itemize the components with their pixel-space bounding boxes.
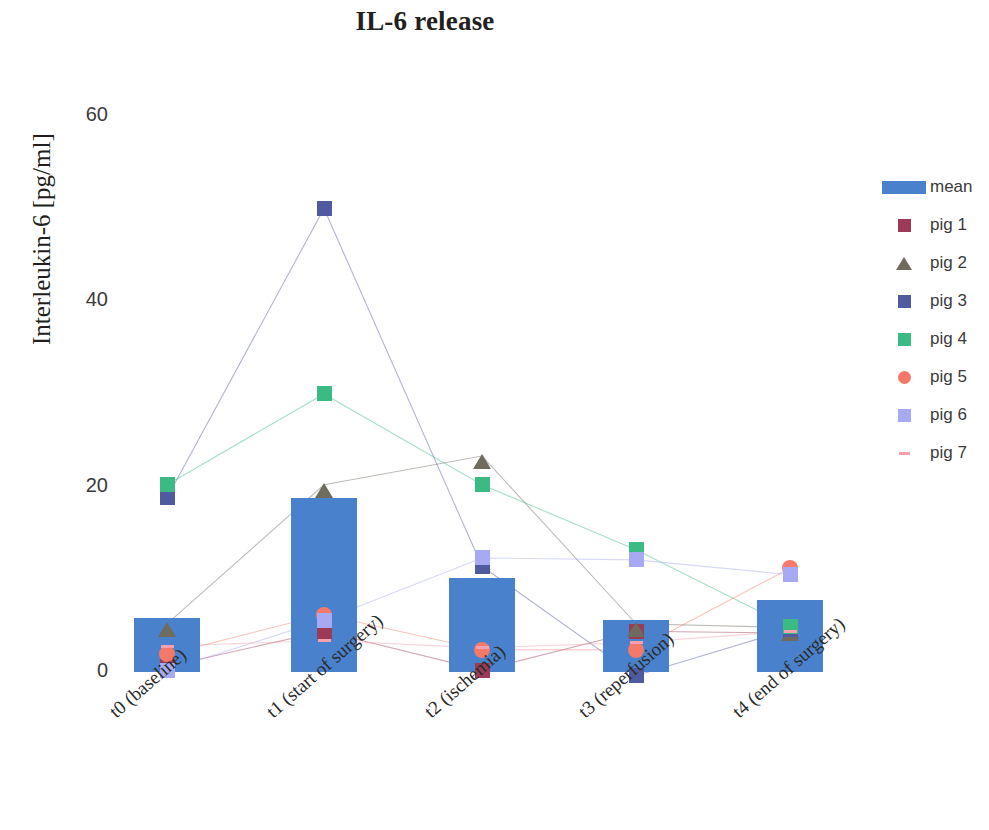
- marker-pig-6-4: [783, 567, 798, 582]
- y-tick-20: 20: [62, 474, 108, 497]
- plot-area: Interleukin-6 [pg/ml] 0204060 t0 (baseli…: [110, 100, 850, 690]
- legend-label: pig 3: [930, 291, 967, 311]
- legend-marker-circle-icon: [878, 371, 930, 384]
- legend-marker-bar-icon: [878, 181, 930, 194]
- marker-pig-3-1: [317, 201, 332, 216]
- marker-pig-2-3: [627, 622, 645, 637]
- legend-item-pig-2[interactable]: pig 2: [878, 244, 989, 282]
- legend-label: pig 2: [930, 253, 967, 273]
- legend-item-pig-5[interactable]: pig 5: [878, 358, 989, 396]
- legend-marker-square-icon: [878, 333, 930, 346]
- legend-label: pig 5: [930, 367, 967, 387]
- legend-marker-square-icon: [878, 295, 930, 308]
- chart-title: IL-6 release: [0, 6, 850, 37]
- y-axis-label: Interleukin-6 [pg/ml]: [28, 45, 56, 345]
- chart-legend: meanpig 1pig 2pig 3pig 4pig 5pig 6pig 7: [878, 168, 989, 472]
- legend-item-pig-4[interactable]: pig 4: [878, 320, 989, 358]
- legend-marker-square-icon: [878, 219, 930, 232]
- legend-marker-dash-icon: [878, 452, 930, 455]
- marker-pig-2-2: [473, 454, 491, 469]
- chart-figure: IL-6 release Interleukin-6 [pg/ml] 02040…: [0, 0, 989, 830]
- marker-pig-2-0: [158, 622, 176, 637]
- marker-pig-3-0: [160, 490, 175, 505]
- marker-pig-7-1: [318, 639, 331, 642]
- legend-label: pig 1: [930, 215, 967, 235]
- legend-item-pig-3[interactable]: pig 3: [878, 282, 989, 320]
- y-tick-40: 40: [62, 288, 108, 311]
- legend-item-mean[interactable]: mean: [878, 168, 989, 206]
- marker-pig-6-1: [317, 613, 332, 628]
- legend-marker-triangle-icon: [878, 257, 930, 270]
- marker-pig-6-2: [475, 550, 490, 565]
- legend-label: pig 6: [930, 405, 967, 425]
- marker-pig-2-1: [315, 483, 333, 498]
- marker-pig-4-1: [317, 386, 332, 401]
- marker-pig-4-2: [475, 477, 490, 492]
- legend-label: pig 7: [930, 443, 967, 463]
- legend-item-pig-1[interactable]: pig 1: [878, 206, 989, 244]
- legend-marker-square-icon: [878, 409, 930, 422]
- legend-item-pig-6[interactable]: pig 6: [878, 396, 989, 434]
- marker-pig-7-4: [784, 630, 797, 633]
- y-tick-0: 0: [62, 659, 108, 682]
- marker-pig-7-3: [630, 641, 643, 644]
- y-tick-60: 60: [62, 103, 108, 126]
- legend-label: pig 4: [930, 329, 967, 349]
- marker-pig-4-0: [160, 477, 175, 492]
- legend-label: mean: [930, 177, 973, 197]
- marker-pig-6-3: [629, 552, 644, 567]
- legend-item-pig-7[interactable]: pig 7: [878, 434, 989, 472]
